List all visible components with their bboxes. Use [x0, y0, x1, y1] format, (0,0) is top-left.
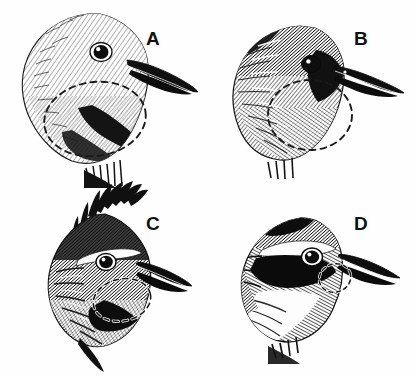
panel-c[interactable] — [0, 188, 209, 376]
panel-label-a: A — [146, 29, 160, 48]
panel-d[interactable] — [209, 188, 417, 376]
figure-plate: A B C D — [0, 0, 417, 376]
panel-label-c: C — [146, 214, 160, 233]
panel-label-b: B — [354, 29, 368, 48]
panel-label-d: D — [354, 214, 368, 233]
panel-b[interactable] — [209, 0, 417, 188]
panel-a[interactable] — [0, 0, 209, 188]
